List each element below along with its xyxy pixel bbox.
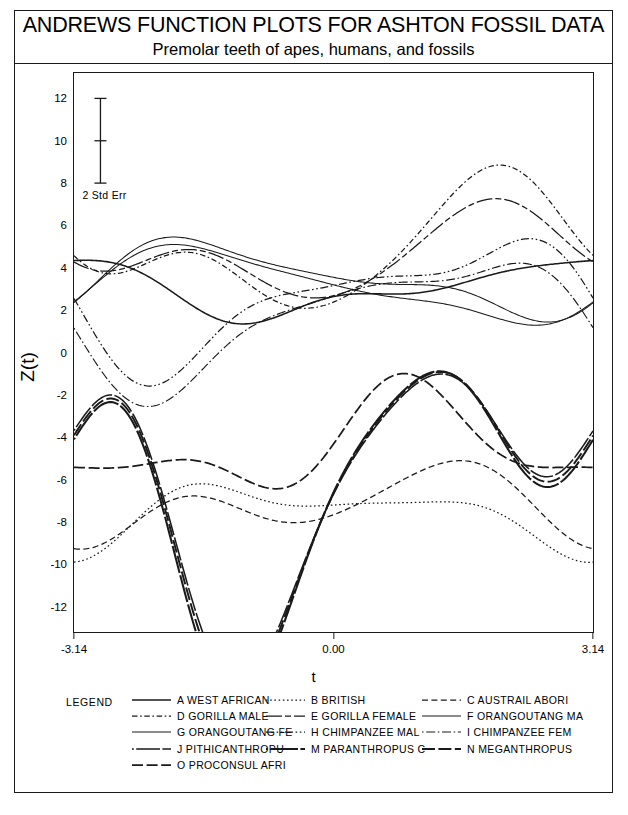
legend-item[interactable]: E GORILLA FEMALE (265, 708, 426, 724)
legend-item-label: O PROCONSUL AFRI (177, 759, 286, 771)
series-line (74, 237, 593, 322)
x-axis-label: t (14, 668, 613, 685)
legend-line-swatch (131, 759, 172, 771)
legend-line-swatch (265, 743, 306, 755)
legend-line-swatch (131, 743, 172, 755)
legend-line-swatch (265, 694, 306, 706)
plot-area (73, 72, 594, 633)
legend-column-2: B BRITISHE GORILLA FEMALEH CHIMPANZEE MA… (265, 692, 426, 757)
legend-title: LEGEND (66, 696, 113, 708)
chart-title: ANDREWS FUNCTION PLOTS FOR ASHTON FOSSIL… (14, 12, 613, 38)
legend-item[interactable]: O PROCONSUL AFRI (131, 757, 293, 773)
legend-line-swatch (131, 710, 172, 722)
y-tick-label: -8 (57, 516, 67, 528)
std-err-label: 2 Std Err (82, 189, 126, 201)
y-tick-label: -6 (57, 474, 67, 486)
y-tick-label: -12 (50, 601, 67, 613)
y-tick-label: 8 (61, 177, 67, 189)
legend-item-label: B BRITISH (311, 694, 366, 706)
legend-item[interactable]: C AUSTRAIL ABORI (421, 692, 583, 708)
series-line (74, 199, 593, 298)
series-line (74, 244, 593, 325)
legend-item-label: N MEGANTHROPUS (467, 743, 572, 755)
legend-item[interactable]: M PARANTHROPUS C (265, 741, 426, 757)
title-divider (15, 63, 612, 64)
series-line (74, 374, 593, 632)
y-tick-label: 6 (61, 219, 67, 231)
y-tick-label: 12 (54, 92, 67, 104)
y-tick-label: -4 (57, 431, 67, 443)
legend-item[interactable]: N MEGANTHROPUS (421, 741, 583, 757)
legend-line-swatch (265, 726, 306, 738)
x-tick-mark (333, 633, 334, 639)
series-line (74, 239, 593, 386)
chart-subtitle: Premolar teeth of apes, humans, and foss… (14, 39, 613, 59)
y-tick-label: -2 (57, 389, 67, 401)
legend-item[interactable]: F ORANGOUTANG MA (421, 708, 583, 724)
y-tick-label: -10 (50, 558, 67, 570)
legend-column-3: C AUSTRAIL ABORIF ORANGOUTANG MAI CHIMPA… (421, 692, 583, 757)
x-tick-label: 3.14 (582, 643, 604, 655)
x-tick-mark (73, 633, 74, 639)
legend-line-swatch (265, 710, 306, 722)
andrews-curves (74, 73, 593, 632)
chart-page: ANDREWS FUNCTION PLOTS FOR ASHTON FOSSIL… (0, 0, 628, 815)
legend-item-label: M PARANTHROPUS C (311, 743, 426, 755)
legend-item[interactable]: B BRITISH (265, 692, 426, 708)
legend-item[interactable]: I CHIMPANZEE FEM (421, 724, 583, 740)
legend-item-label: F ORANGOUTANG MA (467, 710, 583, 722)
legend: LEGEND A WEST AFRICAND GORILLA MALEG ORA… (14, 692, 613, 778)
legend-item-label: H CHIMPANZEE MAL (311, 726, 420, 738)
legend-item-label: A WEST AFRICAN (177, 694, 270, 706)
legend-line-swatch (421, 743, 462, 755)
legend-item-label: D GORILLA MALE (177, 710, 269, 722)
y-tick-label: 2 (61, 304, 67, 316)
series-line (74, 371, 593, 632)
legend-line-swatch (131, 694, 172, 706)
y-tick-label: 10 (54, 135, 67, 147)
x-tick-label: -3.14 (61, 643, 87, 655)
legend-line-swatch (421, 726, 462, 738)
y-tick-label: 0 (61, 347, 67, 359)
series-line (74, 165, 593, 308)
legend-item[interactable]: H CHIMPANZEE MAL (265, 724, 426, 740)
y-tick-label: 4 (61, 262, 67, 274)
x-tick-mark (592, 633, 593, 639)
legend-item-label: C AUSTRAIL ABORI (467, 694, 569, 706)
legend-item-label: E GORILLA FEMALE (311, 710, 416, 722)
legend-line-swatch (421, 694, 462, 706)
legend-line-swatch (131, 726, 172, 738)
legend-item-label: I CHIMPANZEE FEM (467, 726, 572, 738)
x-tick-label: 0.00 (322, 643, 344, 655)
legend-line-swatch (421, 710, 462, 722)
series-line (74, 372, 593, 632)
